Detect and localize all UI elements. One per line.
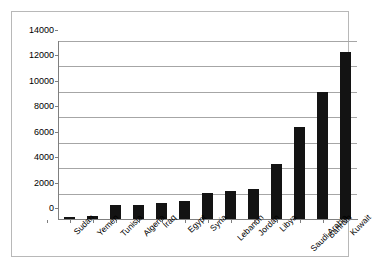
gridline	[58, 66, 357, 67]
x-axis-tick-mark	[300, 220, 301, 223]
gridline	[58, 41, 357, 42]
x-axis-tick-mark	[323, 220, 324, 223]
y-axis-tick-label: 6000	[34, 128, 54, 137]
y-axis-tick-mark	[55, 30, 58, 31]
bar	[317, 92, 328, 219]
y-axis-tick-labels: 02000400060008000100001200014000	[12, 12, 54, 270]
y-axis-tick-label: 4000	[34, 153, 54, 162]
y-axis-line	[58, 41, 59, 220]
x-axis-tick-mark	[185, 220, 186, 223]
gridline	[58, 92, 357, 93]
y-axis-tick-label: 2000	[34, 179, 54, 188]
bar	[340, 52, 351, 219]
bar	[225, 191, 236, 219]
chart-frame: 02000400060008000100001200014000 SudanYe…	[11, 11, 349, 257]
x-axis-tick-mark	[208, 220, 209, 223]
bar	[294, 127, 305, 219]
bar	[271, 164, 282, 219]
gridline	[58, 117, 357, 118]
gridline	[58, 143, 357, 144]
plot-area	[58, 41, 357, 219]
y-axis-tick-label: 8000	[34, 102, 54, 111]
x-axis-tick-mark	[47, 220, 48, 223]
gridline	[58, 168, 357, 169]
bar	[179, 201, 190, 219]
y-axis-tick-label: 10000	[29, 77, 54, 86]
x-axis-tick-mark	[70, 220, 71, 223]
y-axis-tick-label: 0	[49, 204, 54, 213]
x-axis-tick-mark	[231, 220, 232, 223]
y-axis-tick-label: 14000	[29, 26, 54, 35]
y-axis-tick-label: 12000	[29, 51, 54, 60]
